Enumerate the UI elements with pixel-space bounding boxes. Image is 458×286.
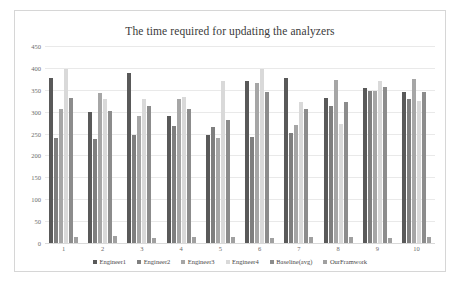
gridline-0: 0 xyxy=(45,243,435,244)
bar-engineer4-6 xyxy=(260,69,264,243)
bar-group-5 xyxy=(206,46,235,243)
legend-label: Baseline(avg) xyxy=(276,258,312,265)
bar-ourframwork-3 xyxy=(152,238,156,243)
bar-group-1 xyxy=(49,46,78,243)
x-axis-label-9: 9 xyxy=(363,245,392,252)
legend-label: Engineer4 xyxy=(232,258,259,265)
chart-title: The time required for updating the analy… xyxy=(15,25,445,37)
y-tick-label: 350 xyxy=(31,86,41,93)
bar-ourframwork-10 xyxy=(427,237,431,243)
bar-baseline-avg--2 xyxy=(108,111,112,243)
x-axis-label-10: 10 xyxy=(402,245,431,252)
y-tick-label: 150 xyxy=(31,174,41,181)
legend-item-ourframwork[interactable]: OurFramwork xyxy=(323,258,367,265)
bar-engineer3-1 xyxy=(59,109,63,243)
bar-group-3 xyxy=(127,46,156,243)
bar-ourframwork-5 xyxy=(231,237,235,243)
legend-label: Engineer2 xyxy=(144,258,171,265)
bar-engineer1-4 xyxy=(167,116,171,243)
bar-ourframwork-1 xyxy=(74,237,78,243)
y-tick-label: 50 xyxy=(35,218,42,225)
bar-baseline-avg--7 xyxy=(304,109,308,243)
bar-baseline-avg--8 xyxy=(344,102,348,243)
bar-baseline-avg--4 xyxy=(187,109,191,243)
bar-group-8 xyxy=(324,46,353,243)
legend-item-engineer1[interactable]: Engineer1 xyxy=(93,258,126,265)
bar-engineer2-2 xyxy=(93,139,97,243)
legend-swatch-icon xyxy=(323,260,327,264)
chart-container: The time required for updating the analy… xyxy=(14,10,446,272)
legend-swatch-icon xyxy=(137,260,141,264)
bar-engineer3-2 xyxy=(98,93,102,243)
legend-swatch-icon xyxy=(93,260,97,264)
bar-ourframwork-8 xyxy=(349,237,353,243)
bar-engineer1-2 xyxy=(88,112,92,243)
bar-engineer1-5 xyxy=(206,135,210,243)
bar-ourframwork-2 xyxy=(113,236,117,243)
bar-group-4 xyxy=(167,46,196,243)
bar-engineer2-6 xyxy=(250,137,254,243)
bar-engineer2-8 xyxy=(329,106,333,243)
x-axis-label-1: 1 xyxy=(49,245,78,252)
legend-swatch-icon xyxy=(181,260,185,264)
bar-engineer4-8 xyxy=(339,124,343,244)
legend-label: OurFramwork xyxy=(330,258,367,265)
x-axis-label-6: 6 xyxy=(245,245,274,252)
y-tick-label: 100 xyxy=(31,196,41,203)
bar-engineer4-2 xyxy=(103,99,107,243)
bar-engineer4-5 xyxy=(221,81,225,243)
bar-engineer2-1 xyxy=(54,138,58,243)
bar-engineer1-9 xyxy=(363,88,367,243)
bar-group-2 xyxy=(88,46,117,243)
bar-baseline-avg--1 xyxy=(69,98,73,243)
bar-engineer3-9 xyxy=(373,91,377,243)
bar-ourframwork-7 xyxy=(309,237,313,243)
bar-engineer3-4 xyxy=(177,99,181,243)
bar-ourframwork-6 xyxy=(270,238,274,243)
legend-item-engineer2[interactable]: Engineer2 xyxy=(137,258,170,265)
bar-engineer2-5 xyxy=(211,127,215,243)
y-tick-label: 400 xyxy=(31,64,41,71)
bar-engineer3-6 xyxy=(255,83,259,243)
bar-engineer3-5 xyxy=(216,138,220,243)
bar-engineer3-3 xyxy=(137,116,141,243)
bar-baseline-avg--9 xyxy=(383,87,387,243)
x-axis-label-5: 5 xyxy=(206,245,235,252)
bar-engineer4-10 xyxy=(417,101,421,243)
bar-engineer1-8 xyxy=(324,98,328,243)
bar-engineer2-10 xyxy=(407,99,411,243)
plot-area: 050100150200250300350400450 xyxy=(45,46,435,243)
y-tick-label: 300 xyxy=(31,108,41,115)
legend-item-engineer3[interactable]: Engineer3 xyxy=(181,258,214,265)
legend-swatch-icon xyxy=(226,260,230,264)
bar-baseline-avg--10 xyxy=(422,92,426,243)
x-axis-label-3: 3 xyxy=(127,245,156,252)
bar-engineer3-7 xyxy=(294,125,298,243)
y-tick-label: 450 xyxy=(31,43,41,50)
bar-groups xyxy=(45,46,435,243)
legend-label: Engineer3 xyxy=(188,258,215,265)
bar-engineer4-4 xyxy=(182,97,186,243)
bar-engineer1-7 xyxy=(284,78,288,243)
bar-baseline-avg--5 xyxy=(226,120,230,243)
bar-engineer4-1 xyxy=(64,69,68,243)
legend-item-engineer4[interactable]: Engineer4 xyxy=(226,258,259,265)
bar-group-7 xyxy=(284,46,313,243)
bar-engineer1-10 xyxy=(402,92,406,243)
y-tick-label: 0 xyxy=(38,240,41,247)
bar-engineer1-1 xyxy=(49,78,53,243)
bar-engineer4-7 xyxy=(299,102,303,243)
bar-engineer3-10 xyxy=(412,79,416,243)
legend-item-baseline-avg-[interactable]: Baseline(avg) xyxy=(270,258,313,265)
bar-baseline-avg--6 xyxy=(265,92,269,243)
bar-group-10 xyxy=(402,46,431,243)
x-axis-labels: 12345678910 xyxy=(45,245,435,252)
chart-legend: Engineer1Engineer2Engineer3Engineer4Base… xyxy=(15,258,445,265)
bar-group-9 xyxy=(363,46,392,243)
bar-engineer1-6 xyxy=(245,81,249,243)
bar-baseline-avg--3 xyxy=(147,106,151,243)
y-tick-label: 200 xyxy=(31,152,41,159)
bar-engineer2-9 xyxy=(368,91,372,243)
bar-group-6 xyxy=(245,46,274,243)
bar-engineer4-3 xyxy=(142,99,146,243)
